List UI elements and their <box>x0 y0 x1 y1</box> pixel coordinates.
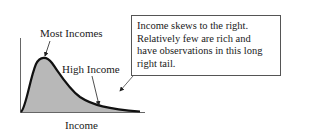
note-line: Income skews to the right. <box>137 20 275 33</box>
note-pointer <box>120 76 133 91</box>
note-line: right tail. <box>137 58 275 71</box>
annotation-box: Income skews to the right. Relatively fe… <box>131 15 281 76</box>
tail-arrow <box>92 76 99 105</box>
peak-label: Most Incomes <box>40 27 103 39</box>
note-line: have observations in this long <box>137 45 275 58</box>
x-axis-label: Income <box>65 119 98 131</box>
peak-arrow <box>45 41 50 56</box>
tail-label: High Income <box>62 63 120 75</box>
note-line: Relatively few are rich and <box>137 33 275 46</box>
